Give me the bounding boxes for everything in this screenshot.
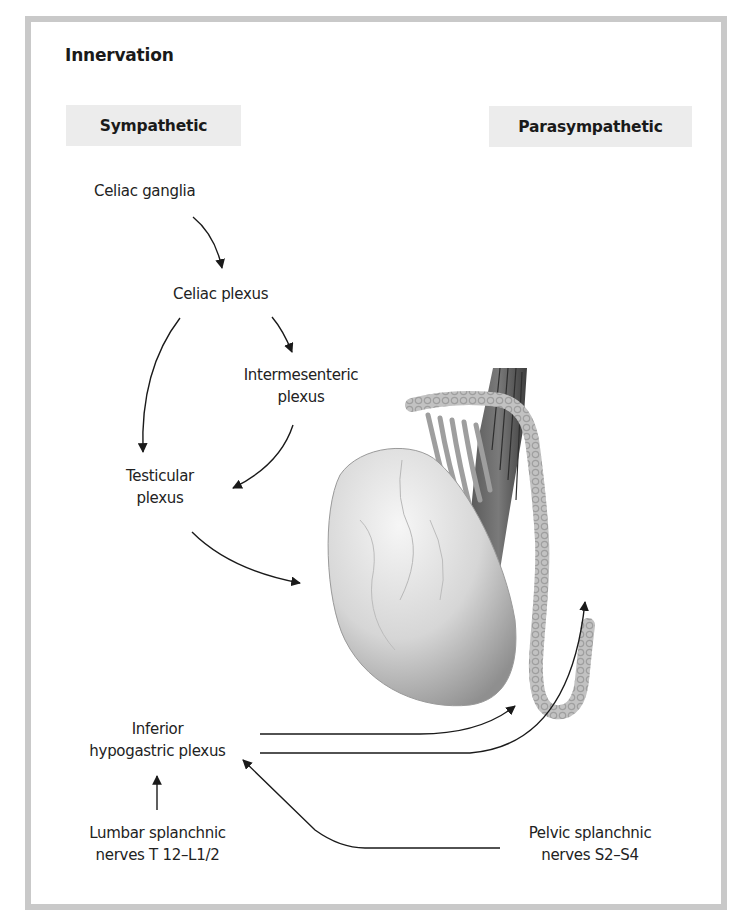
arrow-celiac-ganglia-to-celiac-plexus: [193, 217, 222, 268]
label-testicular-plexus: Testicular plexus: [110, 465, 210, 509]
label-pelvic-splanchnic-nerves: Pelvic splanchnic nerves S2–S4: [510, 822, 670, 866]
arrow-hypogastric-to-epididymis: [260, 706, 515, 734]
arrow-intermesenteric-to-testicular: [233, 425, 293, 488]
diagram-canvas: [0, 0, 739, 914]
label-inferior-hypogastric-plexus: Inferior hypogastric plexus: [70, 718, 245, 762]
arrow-celiac-plexus-to-intermesenteric: [272, 317, 292, 352]
arrow-testicular-to-testis: [192, 532, 300, 583]
label-lumbar-splanchnic-nerves: Lumbar splanchnic nerves T 12–L1/2: [70, 822, 245, 866]
arrow-pelvic-to-hypogastric: [243, 760, 500, 848]
label-celiac-ganglia: Celiac ganglia: [94, 180, 195, 202]
label-celiac-plexus: Celiac plexus: [173, 283, 268, 305]
label-intermesenteric-plexus: Intermesenteric plexus: [236, 364, 366, 408]
arrow-celiac-plexus-to-testicular: [143, 318, 180, 452]
